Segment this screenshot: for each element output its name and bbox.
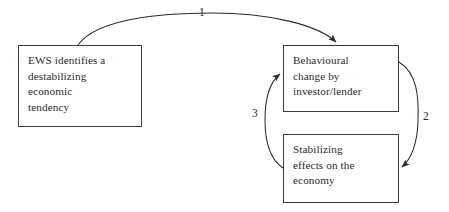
- node-behaviour-line-2: change by: [293, 69, 340, 85]
- edge-label-3: 3: [252, 108, 258, 120]
- edge-arrow-1: [78, 13, 336, 45]
- node-stabilizing-line-2: effects on the: [293, 158, 354, 174]
- node-stabilizing-line-3: economy: [293, 173, 335, 189]
- node-behaviour-line-1: Behavioural: [293, 53, 349, 69]
- edge-arrow-2: [399, 62, 418, 167]
- edge-label-1: 1: [199, 7, 205, 19]
- edge-arrow-3: [265, 74, 283, 168]
- node-ews-line-1: EWS identifies a: [28, 53, 105, 69]
- node-stabilizing-effects: Stabilizing effects on the economy: [283, 134, 399, 203]
- node-stabilizing-line-1: Stabilizing: [293, 142, 343, 158]
- edge-label-2: 2: [423, 111, 429, 123]
- node-ews-line-3: economic: [28, 84, 72, 100]
- node-ews-line-4: tendency: [28, 100, 69, 116]
- diagram-canvas: EWS identifies a destabilizing economic …: [0, 0, 449, 212]
- node-ews-identifies: EWS identifies a destabilizing economic …: [18, 45, 142, 127]
- node-ews-line-2: destabilizing: [28, 69, 86, 85]
- node-behaviour-line-3: investor/lender: [293, 84, 362, 100]
- node-behavioural-change: Behavioural change by investor/lender: [283, 45, 399, 112]
